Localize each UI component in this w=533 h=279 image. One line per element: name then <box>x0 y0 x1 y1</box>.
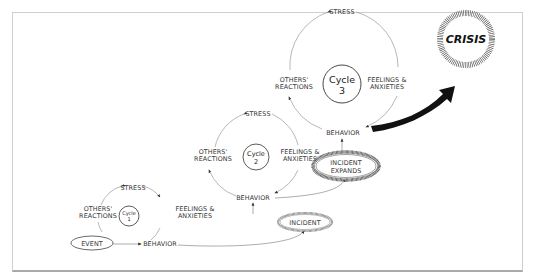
incident-expands-label-2: EXPANDS <box>331 167 362 175</box>
incident-expands-label-1: INCIDENT <box>330 159 361 167</box>
cycle-2-feelings-label-2: ANXIETIES <box>283 155 317 163</box>
event-node: EVENT <box>71 236 113 250</box>
cycle-3-number: 3 <box>339 85 345 96</box>
incident-node: INCIDENT <box>278 213 332 231</box>
cycle-1-arc-behavior-to-reactions <box>98 222 102 232</box>
incident-expands-node: INCIDENT EXPANDS <box>313 152 379 180</box>
cycle-3-feelings-label-2: ANXIETIES <box>370 83 404 91</box>
cycle-1-number: 1 <box>127 216 130 222</box>
cycle-1-behavior-label: BEHAVIOR <box>143 240 177 248</box>
cycle-2-behavior-label: BEHAVIOR <box>236 194 270 202</box>
cycle-3-arc-reactions-to-stress <box>290 12 328 70</box>
cycle-2-arc-feelings-to-behavior <box>275 170 298 193</box>
behavior1-to-incident-arrow <box>178 231 304 246</box>
cycle-1-feelings-label-2: ANXIETIES <box>178 212 212 220</box>
cycle-1-arc-feelings-to-behavior <box>151 228 160 240</box>
escalation-cycle-diagram: Cycle 1 STRESS OTHERS' REACTIONS FEELING… <box>0 0 533 279</box>
cycle-2-arc-behavior-to-reactions <box>209 170 236 196</box>
cycle-2-reactions-label-2: REACTIONS <box>194 155 232 163</box>
crisis-node: CRISIS <box>440 13 492 65</box>
crisis-label: CRISIS <box>446 33 487 46</box>
cycle-2: Cycle 2 STRESS OTHERS' REACTIONS FEELING… <box>194 110 319 202</box>
cycle-2-arc-reactions-to-stress <box>215 114 244 147</box>
cycle-3-arc-stress-to-feelings <box>356 12 398 67</box>
escalation-arrow-icon <box>371 86 455 132</box>
cycle-2-stress-label: STRESS <box>245 110 270 118</box>
cycle-2-name: Cycle <box>247 150 265 158</box>
behavior2-to-incident-expands-arrow <box>275 179 345 198</box>
cycle-3-name: Cycle <box>329 74 355 85</box>
cycle-3-stress-label: STRESS <box>329 8 354 16</box>
cycle-1-arc-reactions-to-stress <box>101 186 122 205</box>
event-label: EVENT <box>81 240 103 248</box>
cycle-2-arc-stress-to-feelings <box>272 114 298 145</box>
cycle-1-stress-label: STRESS <box>120 184 145 192</box>
incident-label: INCIDENT <box>289 219 320 227</box>
cycle-2-number: 2 <box>254 158 258 166</box>
cycle-3-arc-behavior-to-reactions <box>289 97 322 129</box>
cycle-3-reactions-label-2: REACTIONS <box>275 83 313 91</box>
cycle-1-reactions-label-2: REACTIONS <box>79 212 117 220</box>
cycle-3: Cycle 3 STRESS OTHERS' REACTIONS FEELING… <box>275 8 406 137</box>
cycle-3-behavior-label: BEHAVIOR <box>326 129 360 137</box>
